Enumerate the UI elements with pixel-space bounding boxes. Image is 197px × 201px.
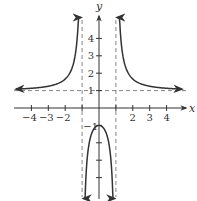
y-tick-label: 4 — [88, 33, 94, 44]
y-tick-label: 2 — [88, 68, 94, 79]
y-tick-label: 1 — [88, 85, 94, 96]
axes — [14, 16, 186, 199]
curve-branch — [16, 18, 81, 90]
rational-function-graph: −4−3−22344321−1 x y — [0, 0, 197, 201]
x-tick-label: 3 — [147, 112, 153, 123]
x-tick-label: −2 — [56, 112, 71, 123]
x-tick-label: 4 — [163, 112, 169, 123]
curve-branch — [117, 18, 182, 90]
y-axis-label: y — [95, 0, 103, 13]
x-tick-label: 2 — [130, 112, 136, 123]
y-tick-label: 3 — [88, 50, 94, 61]
x-axis-label: x — [189, 102, 196, 115]
x-tick-label: −4 — [22, 112, 37, 123]
tick-labels: −4−3−22344321−1 — [22, 33, 170, 132]
x-tick-label: −3 — [39, 112, 54, 123]
